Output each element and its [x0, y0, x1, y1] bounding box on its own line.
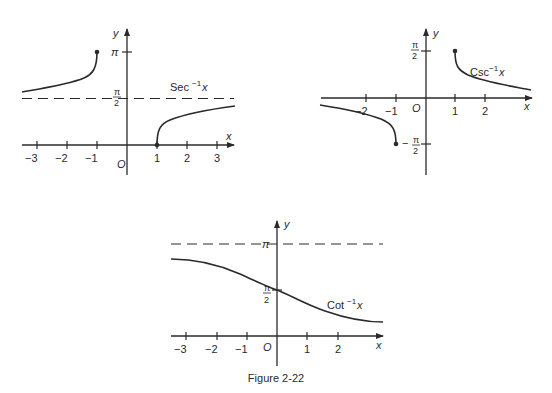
svg-text:−1: −1 [489, 64, 499, 73]
y-tick-pi-half-den: 2 [264, 295, 269, 305]
x-tick-labels: −3 −2 −1 1 2 [174, 343, 341, 355]
svg-text:−1: −1 [385, 105, 398, 117]
y-tick-pi: π [111, 46, 119, 58]
y-tick-neg-pi-half-num: π [413, 135, 419, 145]
svg-text:1: 1 [304, 343, 310, 355]
function-label: Sec −1 x [170, 79, 208, 93]
origin-label: O [412, 102, 421, 114]
y-axis-label: y [112, 27, 120, 39]
svg-text:1: 1 [154, 152, 160, 164]
arcsec-right-branch [157, 106, 235, 145]
x-axis-label: x [375, 339, 382, 351]
y-tick-pi: π [262, 238, 270, 250]
endpoint-dot [95, 50, 100, 55]
svg-text:−1: −1 [192, 79, 202, 88]
function-label: Csc −1 x [470, 64, 505, 78]
svg-text:−2: −2 [205, 343, 218, 355]
svg-text:1: 1 [452, 105, 458, 117]
y-tick-pi-half-num: π [264, 283, 270, 293]
chart-arcsec: y x O π π 2 −3 −2 −1 1 2 3 Sec −1 x [22, 27, 235, 175]
svg-text:−1: −1 [347, 297, 357, 306]
y-axis-label: y [283, 218, 291, 230]
arcsec-left-branch [22, 52, 97, 92]
y-tick-neg-pi-half-den: 2 [413, 146, 418, 156]
svg-text:−2: −2 [355, 105, 368, 117]
y-tick-pi-half-num: π [114, 87, 120, 97]
y-tick-pi-half-den: 2 [114, 98, 119, 108]
x-tick-labels: −2 −1 1 2 [355, 105, 488, 117]
svg-text:3: 3 [214, 152, 220, 164]
y-tick-neg-sign: − [402, 137, 408, 149]
endpoint-dot [394, 142, 399, 147]
svg-text:−1: −1 [235, 343, 248, 355]
origin-label: O [263, 341, 272, 353]
origin-label: O [117, 158, 126, 170]
endpoint-dot [453, 49, 458, 54]
function-label: Cot −1 x [327, 297, 363, 311]
svg-text:x: x [201, 81, 208, 93]
y-tick-pi-half-num: π [412, 40, 418, 50]
svg-text:Sec: Sec [170, 81, 189, 93]
svg-text:Cot: Cot [327, 299, 344, 311]
svg-text:−3: −3 [174, 343, 187, 355]
x-axis-label: x [523, 100, 530, 112]
svg-text:x: x [356, 299, 363, 311]
svg-text:−3: −3 [25, 152, 38, 164]
chart-arccot: y x O π π 2 −3 −2 −1 1 2 Cot −1 x [171, 218, 383, 366]
x-ticks [186, 290, 338, 340]
svg-text:x: x [498, 66, 505, 78]
svg-text:−2: −2 [55, 152, 68, 164]
svg-text:2: 2 [184, 152, 190, 164]
svg-text:−1: −1 [85, 152, 98, 164]
svg-text:2: 2 [335, 343, 341, 355]
svg-text:Csc: Csc [470, 66, 489, 78]
figure-caption: Figure 2-22 [0, 372, 552, 384]
endpoint-dot [155, 143, 160, 148]
x-axis-label: x [225, 130, 232, 142]
svg-text:2: 2 [482, 105, 488, 117]
chart-arccsc: y x O π 2 − π 2 −2 −1 1 2 Csc −1 x [320, 27, 532, 175]
y-tick-pi-half-den: 2 [412, 51, 417, 61]
y-axis-label: y [432, 27, 440, 39]
figure-canvas: y x O π π 2 −3 −2 −1 1 2 3 Sec −1 x [0, 0, 552, 393]
